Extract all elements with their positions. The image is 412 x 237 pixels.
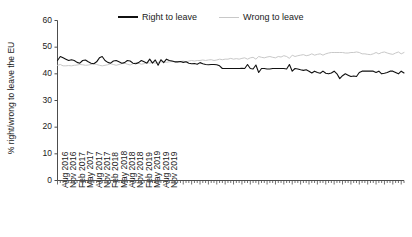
series-line-wrong-to-leave xyxy=(58,52,405,66)
axis-lines xyxy=(58,21,405,181)
chart-container: Right to leave Wrong to leave % right/wr… xyxy=(0,0,412,237)
x-axis-tick-marks xyxy=(58,181,405,185)
series-line-right-to-leave xyxy=(58,57,405,79)
plot-area xyxy=(0,0,412,237)
